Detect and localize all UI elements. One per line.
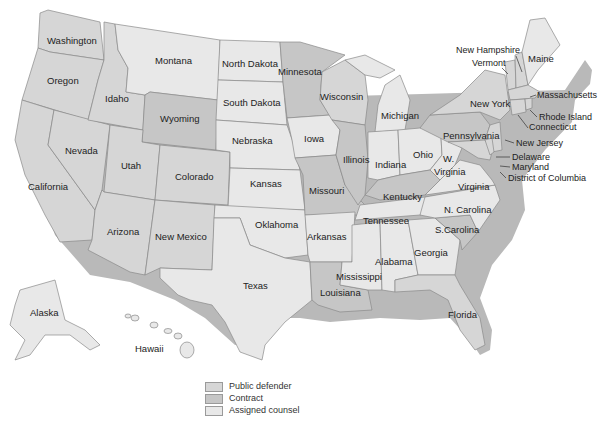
state-michigan[interactable] <box>375 75 410 132</box>
label-north-dakota: North Dakota <box>222 58 279 69</box>
label-w-virginia-1: W. <box>443 153 454 164</box>
label-massachusetts: Massachusetts <box>537 90 598 100</box>
label-minnesota: Minnesota <box>278 66 323 77</box>
label-new-york: New York <box>470 98 510 109</box>
state-alaska[interactable] <box>10 280 100 360</box>
label-s-carolina: S.Carolina <box>435 224 480 235</box>
label-virginia: Virginia <box>458 181 490 192</box>
us-map: Washington Oregon Idaho Montana Wyoming … <box>0 0 606 423</box>
label-south-dakota: South Dakota <box>223 97 281 108</box>
label-kentucky: Kentucky <box>383 191 422 202</box>
label-maine: Maine <box>528 53 554 64</box>
legend: Public defender Contract Assigned counse… <box>205 381 300 417</box>
state-indiana[interactable] <box>368 130 400 180</box>
label-new-jersey: New Jersey <box>516 138 564 148</box>
label-maryland: Maryland <box>512 162 549 172</box>
label-california: California <box>28 181 69 192</box>
label-oregon: Oregon <box>47 75 79 86</box>
label-alaska: Alaska <box>30 307 59 318</box>
legend-label: Public defender <box>229 381 292 392</box>
label-wisconsin: Wisconsin <box>320 91 363 102</box>
legend-swatch-contract <box>205 394 223 404</box>
label-wyoming: Wyoming <box>160 113 200 124</box>
label-connecticut: Connecticut <box>529 122 577 132</box>
label-illinois: Illinois <box>343 154 370 165</box>
label-oklahoma: Oklahoma <box>255 219 299 230</box>
label-pennsylvania: Pennsylvania <box>443 130 500 141</box>
label-florida: Florida <box>448 309 478 320</box>
label-w-virginia-2: Virginia <box>434 166 466 177</box>
label-arizona: Arizona <box>107 226 140 237</box>
label-alabama: Alabama <box>375 256 413 267</box>
state-kansas[interactable] <box>228 168 305 210</box>
label-michigan: Michigan <box>381 110 419 121</box>
state-rhode-island[interactable] <box>525 98 532 110</box>
label-new-mexico: New Mexico <box>155 231 207 242</box>
label-dc: District of Columbia <box>508 173 586 183</box>
legend-item-public-defender: Public defender <box>205 381 300 392</box>
state-connecticut[interactable] <box>510 99 526 115</box>
label-idaho: Idaho <box>105 93 129 104</box>
label-kansas: Kansas <box>250 178 282 189</box>
label-mississippi: Mississippi <box>336 271 382 282</box>
label-utah: Utah <box>121 160 141 171</box>
label-tennessee: Tennessee <box>363 215 409 226</box>
label-delaware: Delaware <box>512 152 550 162</box>
label-missouri: Missouri <box>309 185 344 196</box>
label-hawaii: Hawaii <box>135 343 164 354</box>
legend-swatch-public-defender <box>205 382 223 392</box>
label-georgia: Georgia <box>414 247 449 258</box>
legend-swatch-assigned-counsel <box>205 406 223 416</box>
legend-label: Contract <box>229 393 263 404</box>
state-maine[interactable] <box>522 18 560 85</box>
label-indiana: Indiana <box>375 159 407 170</box>
label-new-hampshire: New Hampshire <box>456 45 520 55</box>
label-louisiana: Louisiana <box>320 287 361 298</box>
label-washington: Washington <box>47 35 97 46</box>
label-nevada: Nevada <box>65 145 98 156</box>
label-texas: Texas <box>243 280 268 291</box>
label-nebraska: Nebraska <box>232 135 273 146</box>
label-rhode-island: Rhode Island <box>539 112 592 122</box>
label-vermont: Vermont <box>472 58 506 68</box>
legend-item-assigned-counsel: Assigned counsel <box>205 405 300 416</box>
label-arkansas: Arkansas <box>307 231 347 242</box>
legend-item-contract: Contract <box>205 393 300 404</box>
label-iowa: Iowa <box>304 133 325 144</box>
legend-label: Assigned counsel <box>229 405 300 416</box>
label-ohio: Ohio <box>413 149 433 160</box>
label-montana: Montana <box>155 55 193 66</box>
label-n-carolina: N. Carolina <box>444 204 492 215</box>
label-colorado: Colorado <box>175 171 214 182</box>
